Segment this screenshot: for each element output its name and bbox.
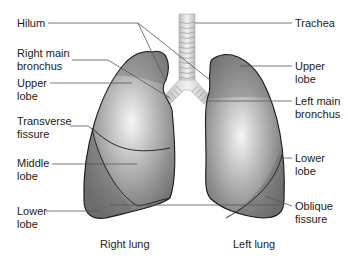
lungs-diagram: Hilum Right main bronchus Upper lobe Tra… [0,0,348,264]
caption-right-lung: Right lung [100,238,150,250]
label-left-lower-lobe: Lower lobe [295,152,325,177]
label-right-main-bronchus: Right main bronchus [17,47,70,72]
left-lung-shape [200,40,300,240]
label-left-upper-lobe: Upper lobe [295,60,325,85]
label-trachea: Trachea [295,17,335,30]
label-oblique-fissure: Oblique fissure [295,200,333,225]
label-left-main-bronchus: Left main bronchus [295,95,340,120]
label-hilum: Hilum [17,17,45,30]
label-transverse-fissure: Transverse fissure [17,115,72,140]
label-middle-lobe: Middle lobe [17,157,49,182]
label-right-lower-lobe: Lower lobe [17,205,47,230]
caption-left-lung: Left lung [233,238,275,250]
label-right-upper-lobe: Upper lobe [17,77,47,102]
trachea-shape [164,14,210,104]
right-lung-shape [60,40,180,240]
